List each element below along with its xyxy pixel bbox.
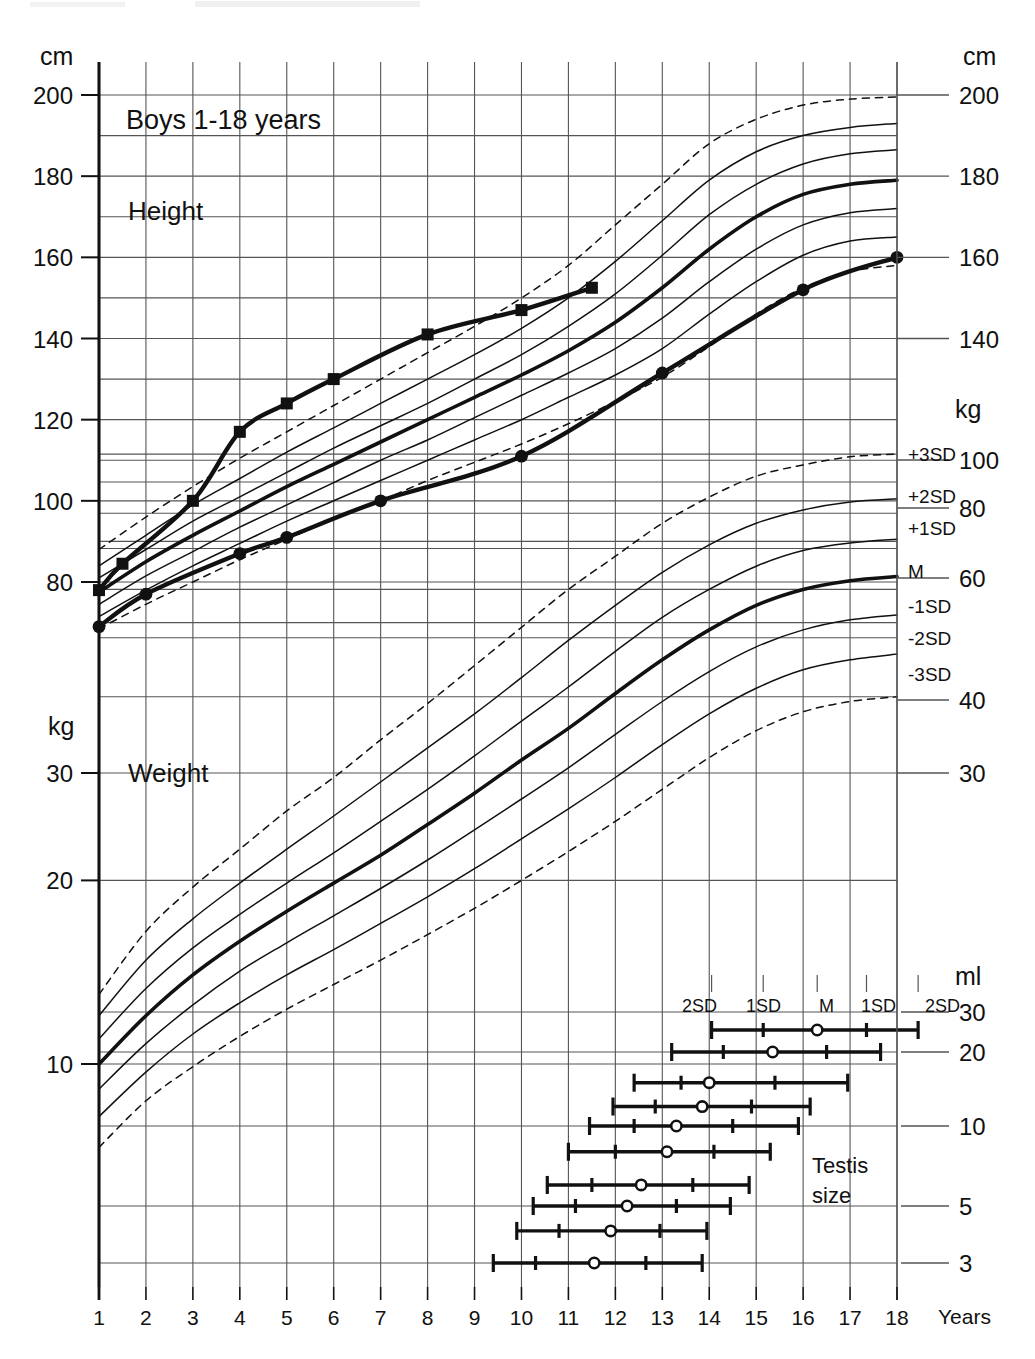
data-point-marker-circle <box>140 588 153 601</box>
tick-label-height-right-200: 200 <box>959 82 999 109</box>
tick-label-year-16: 16 <box>791 1306 814 1329</box>
data-point-marker-square <box>234 426 246 438</box>
tick-label-height-left-160: 160 <box>33 244 73 271</box>
data-point-marker-square <box>328 373 340 385</box>
tick-label-weight-right-30: 30 <box>959 760 986 787</box>
tick-label-year-11: 11 <box>558 1306 580 1329</box>
scan-artifact <box>30 2 125 7</box>
testis-median-marker <box>622 1201 632 1211</box>
data-point-marker-circle <box>656 367 669 380</box>
tick-label-year-14: 14 <box>698 1306 722 1329</box>
tick-label-height-left-120: 120 <box>33 407 73 434</box>
testis-median-marker <box>767 1047 777 1057</box>
tick-label-height-left-180: 180 <box>33 163 73 190</box>
tick-label-height-right-140: 140 <box>959 326 999 353</box>
tick-label-year-17: 17 <box>838 1306 861 1329</box>
tick-label-testis-3: 3 <box>959 1250 972 1277</box>
tick-label-testis-5: 5 <box>959 1193 972 1220</box>
tick-label-weight-right-40: 40 <box>959 687 986 714</box>
tick-label-year-9: 9 <box>469 1306 481 1329</box>
data-point-marker-square <box>187 495 199 507</box>
testis-median-marker <box>812 1025 822 1035</box>
tick-label-year-7: 7 <box>375 1306 387 1329</box>
tick-label-year-2: 2 <box>140 1306 152 1329</box>
data-point-marker-square <box>422 328 434 340</box>
data-point-marker-square <box>515 304 527 316</box>
data-point-marker-circle <box>797 283 810 296</box>
tick-label-year-5: 5 <box>281 1306 293 1329</box>
tick-label-year-4: 4 <box>234 1306 246 1329</box>
tick-label-height-left-100: 100 <box>33 488 73 515</box>
tick-label-testis-30: 30 <box>959 999 986 1026</box>
data-point-marker-circle <box>515 450 528 463</box>
tick-label-weight-left-20: 20 <box>46 867 73 894</box>
testis-median-marker <box>636 1180 646 1190</box>
tick-label-weight-right-60: 60 <box>959 565 986 592</box>
growth-chart-svg: 2001801601401201008020018016014030201010… <box>0 0 1035 1359</box>
data-point-marker-square <box>281 397 293 409</box>
testis-median-marker <box>662 1147 672 1157</box>
scan-artifact <box>195 1 420 7</box>
testis-median-marker <box>589 1258 599 1268</box>
tick-label-year-13: 13 <box>651 1306 674 1329</box>
testis-median-marker <box>704 1078 714 1088</box>
tick-label-year-10: 10 <box>510 1306 533 1329</box>
tick-label-weight-right-100: 100 <box>959 447 999 474</box>
growth-chart-page: 2001801601401201008020018016014030201010… <box>0 0 1035 1359</box>
data-point-marker-circle <box>374 494 387 507</box>
tick-label-height-right-160: 160 <box>959 244 999 271</box>
testis-median-marker <box>697 1101 707 1111</box>
data-point-marker-square <box>586 282 598 294</box>
testis-median-marker <box>671 1121 681 1131</box>
tick-label-weight-left-10: 10 <box>46 1051 73 1078</box>
tick-label-year-6: 6 <box>328 1306 340 1329</box>
tick-label-year-18: 18 <box>885 1306 908 1329</box>
data-point-marker-circle <box>233 547 246 560</box>
tick-label-height-right-180: 180 <box>959 163 999 190</box>
tick-label-testis-20: 20 <box>959 1039 986 1066</box>
data-point-marker-square <box>116 558 128 570</box>
tick-label-year-8: 8 <box>422 1306 434 1329</box>
tick-label-height-left-140: 140 <box>33 326 73 353</box>
testis-median-marker <box>605 1226 615 1236</box>
tick-label-weight-left-30: 30 <box>46 760 73 787</box>
tick-label-height-left-80: 80 <box>46 569 73 596</box>
tick-label-height-left-200: 200 <box>33 82 73 109</box>
tick-label-year-15: 15 <box>744 1306 767 1329</box>
tick-label-year-1: 1 <box>93 1306 105 1329</box>
tick-label-testis-10: 10 <box>959 1113 986 1140</box>
tick-label-weight-right-80: 80 <box>959 495 986 522</box>
tick-label-year-3: 3 <box>187 1306 199 1329</box>
chart-background <box>0 0 1035 1359</box>
data-point-marker-circle <box>280 531 293 544</box>
tick-label-year-12: 12 <box>604 1306 627 1329</box>
